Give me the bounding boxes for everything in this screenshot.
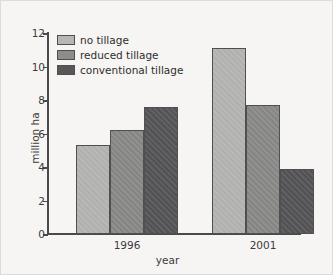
x-tick-label: 2001 [212, 239, 314, 251]
legend: no tillagereduced tillageconventional ti… [57, 33, 183, 76]
legend-item: conventional tillage [57, 63, 183, 76]
y-tick-label: 4 [38, 161, 45, 173]
legend-swatch-icon [57, 35, 75, 45]
x-tick-label: 1996 [76, 239, 178, 251]
legend-swatch-icon [57, 65, 75, 75]
y-tick-label: 12 [32, 27, 45, 39]
y-tick-label: 10 [32, 61, 45, 73]
legend-label: conventional tillage [80, 64, 183, 76]
y-tick-label: 0 [38, 228, 45, 240]
bar [110, 130, 144, 234]
y-tick-label: 8 [38, 94, 45, 106]
bar [76, 145, 110, 234]
bar [144, 107, 178, 234]
x-axis-label: year [1, 254, 333, 266]
y-tick-label: 6 [38, 128, 45, 140]
legend-item: no tillage [57, 33, 183, 46]
legend-label: no tillage [80, 34, 129, 46]
bar [280, 169, 314, 234]
legend-label: reduced tillage [80, 49, 159, 61]
bar-chart-figure: million ha 024681012 19962001 year no ti… [0, 0, 333, 275]
y-tick-label: 2 [38, 195, 45, 207]
legend-item: reduced tillage [57, 48, 183, 61]
legend-swatch-icon [57, 50, 75, 60]
bar [246, 105, 280, 234]
bar [212, 48, 246, 234]
